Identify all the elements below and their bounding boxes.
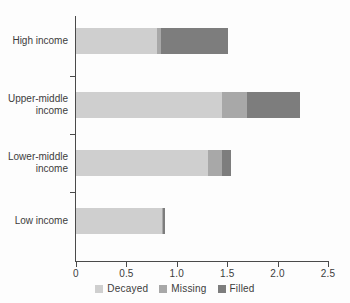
y-axis-tick — [70, 76, 76, 77]
legend-item-missing[interactable]: Missing — [159, 283, 206, 294]
bar-segment-filled[interactable] — [163, 208, 165, 234]
chart-legend: Decayed Missing Filled — [0, 283, 350, 294]
category-label-upper-middle-income: Upper-middle income — [0, 93, 68, 117]
legend-label-decayed: Decayed — [107, 283, 148, 294]
x-axis-tick — [328, 262, 329, 267]
bar-row[interactable] — [76, 150, 231, 176]
bar-segment-missing[interactable] — [222, 92, 247, 118]
x-axis-line — [76, 261, 329, 262]
bar-segment-decayed[interactable] — [76, 150, 208, 176]
y-axis-tick — [70, 192, 76, 193]
bar-segment-decayed[interactable] — [76, 28, 157, 54]
x-axis-tick — [126, 262, 127, 267]
x-axis-tick-label: 0.5 — [119, 268, 134, 279]
category-label-low-income: Low income — [0, 215, 68, 227]
x-axis-tick — [278, 262, 279, 267]
x-axis-tick — [76, 262, 77, 267]
category-label-lower-middle-income: Lower-middle income — [0, 151, 68, 175]
legend-swatch-missing — [159, 285, 167, 293]
x-axis-tick-label: 2.5 — [321, 268, 336, 279]
legend-label-missing: Missing — [171, 283, 206, 294]
bar-segment-filled[interactable] — [247, 92, 299, 118]
legend-swatch-decayed — [95, 285, 103, 293]
legend-item-decayed[interactable]: Decayed — [95, 283, 148, 294]
bar-row[interactable] — [76, 28, 228, 54]
bar-segment-filled[interactable] — [222, 150, 231, 176]
x-axis-tick-label: 2.0 — [270, 268, 285, 279]
x-axis-tick-label: 1.5 — [220, 268, 235, 279]
bar-segment-filled[interactable] — [161, 28, 229, 54]
x-axis-tick-label: 1.0 — [170, 268, 185, 279]
bar-row[interactable] — [76, 92, 300, 118]
category-label-high-income: High income — [0, 35, 68, 47]
bar-row[interactable] — [76, 208, 165, 234]
legend-swatch-filled — [218, 285, 226, 293]
x-axis-tick — [227, 262, 228, 267]
stacked-bar-chart: High income Upper-middle income Lower-mi… — [0, 0, 350, 303]
legend-label-filled: Filled — [230, 283, 255, 294]
y-axis-tick — [70, 134, 76, 135]
x-axis-tick-label: 0 — [73, 268, 79, 279]
legend-item-filled[interactable]: Filled — [218, 283, 255, 294]
bar-segment-decayed[interactable] — [76, 92, 222, 118]
bar-segment-decayed[interactable] — [76, 208, 162, 234]
x-axis-tick — [177, 262, 178, 267]
bar-segment-missing[interactable] — [208, 150, 222, 176]
